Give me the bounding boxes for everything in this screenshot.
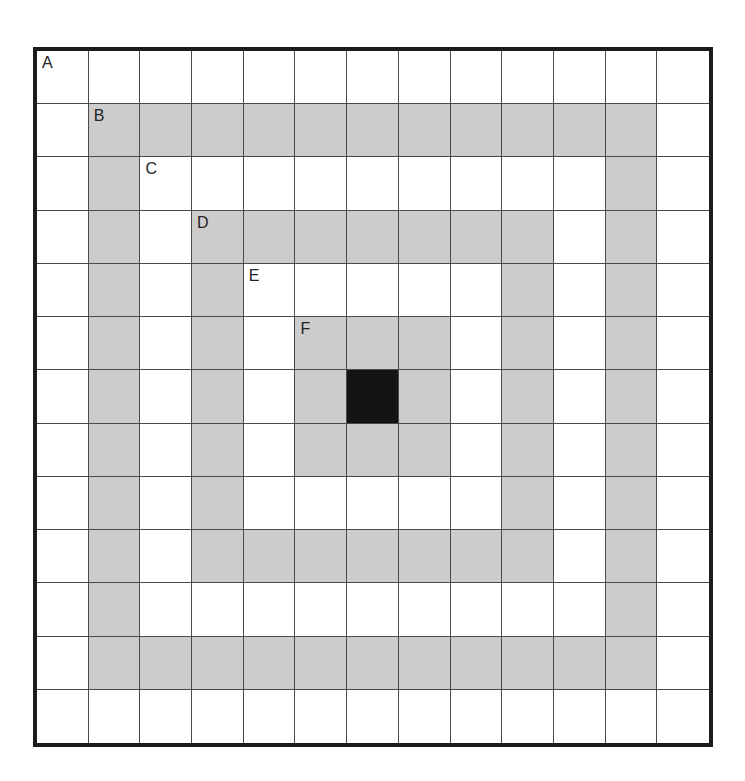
grid-cell-ring-0 (451, 690, 503, 743)
grid-cell-ring-2 (554, 583, 606, 636)
grid-cell-ring-0 (657, 264, 709, 317)
grid-cell-ring-2 (244, 583, 296, 636)
grid-cell-ring-0 (657, 637, 709, 690)
grid-cell-ring-2 (140, 370, 192, 423)
grid-cell-ring-3 (502, 477, 554, 530)
grid-cell-ring-0 (657, 690, 709, 743)
grid-cell-ring-4 (295, 477, 347, 530)
grid-cell-ring-0 (244, 690, 296, 743)
grid-cell-ring-2 (140, 583, 192, 636)
grid-cell-ring-2 (140, 530, 192, 583)
grid-cell-ring-5 (347, 317, 399, 370)
grid-cell-ring-4 (244, 370, 296, 423)
grid-cell-ring-3 (295, 530, 347, 583)
grid-cell-ring-0 (37, 264, 89, 317)
grid-cell-ring-0 (37, 424, 89, 477)
grid-cell-ring-2 (244, 157, 296, 210)
grid-cell-ring-0 (657, 51, 709, 104)
grid-cell-ring-0 (37, 690, 89, 743)
grid-cell-ring-1 (192, 104, 244, 157)
grid-cell-ring-0 (295, 690, 347, 743)
grid-cell-ring-3 (192, 530, 244, 583)
grid-cell-ring-0 (657, 530, 709, 583)
grid-cell-ring-2 (554, 424, 606, 477)
grid-cell-ring-5 (295, 370, 347, 423)
grid-cell-ring-2: C (140, 157, 192, 210)
grid-cell-ring-1 (554, 637, 606, 690)
grid-cell-ring-0 (140, 51, 192, 104)
grid-cell-ring-1 (451, 104, 503, 157)
grid-cell-ring-0 (140, 690, 192, 743)
grid-cell-ring-2 (502, 157, 554, 210)
grid-cell-ring-1 (89, 583, 141, 636)
grid-cell-ring-3 (451, 530, 503, 583)
grid-cell-ring-3 (244, 211, 296, 264)
grid-cell-ring-2 (192, 157, 244, 210)
grid-cell-ring-3 (347, 211, 399, 264)
grid-cell-ring-5 (399, 370, 451, 423)
grid-cell-ring-1 (89, 477, 141, 530)
grid-cell-ring-0 (192, 51, 244, 104)
grid-cell-ring-0 (89, 51, 141, 104)
grid-cell-ring-1 (89, 530, 141, 583)
grid-cell-ring-0 (606, 51, 658, 104)
ring-grid: ABCDEF (37, 51, 709, 743)
grid-cell-ring-2 (554, 264, 606, 317)
grid-cell-ring-3 (399, 211, 451, 264)
ring-label-b: B (94, 108, 105, 124)
grid-cell-ring-0 (657, 157, 709, 210)
grid-cell-ring-2 (140, 264, 192, 317)
grid-cell-ring-0 (657, 424, 709, 477)
grid-cell-ring-3 (502, 211, 554, 264)
grid-cell-ring-0 (37, 477, 89, 530)
ring-label-e: E (249, 268, 260, 284)
grid-cell-ring-0 (657, 104, 709, 157)
grid-cell-ring-2 (554, 477, 606, 530)
grid-cell-ring-0 (399, 51, 451, 104)
grid-cell-ring-4 (399, 477, 451, 530)
grid-cell-ring-1 (89, 264, 141, 317)
grid-cell-ring-3 (244, 530, 296, 583)
grid-cell-ring-3 (502, 530, 554, 583)
grid-cell-ring-1 (606, 157, 658, 210)
grid-cell-ring-1 (347, 104, 399, 157)
grid-cell-ring-2 (140, 424, 192, 477)
grid-cell-ring-5: F (295, 317, 347, 370)
grid-cell-ring-0 (192, 690, 244, 743)
grid-cell-ring-4 (451, 264, 503, 317)
grid-cell-ring-0 (37, 317, 89, 370)
grid-cell-ring-1 (295, 637, 347, 690)
ring-grid-board: ABCDEF (33, 47, 713, 747)
grid-cell-ring-1 (89, 211, 141, 264)
grid-cell-ring-5 (347, 424, 399, 477)
grid-cell-ring-1 (606, 424, 658, 477)
grid-cell-ring-5 (295, 424, 347, 477)
grid-cell-ring-3 (192, 424, 244, 477)
grid-cell-ring-0 (554, 51, 606, 104)
grid-cell-ring-1 (606, 317, 658, 370)
grid-cell-ring-0 (37, 157, 89, 210)
grid-cell-ring-1 (140, 104, 192, 157)
grid-cell-ring-3 (192, 370, 244, 423)
grid-cell-ring-0 (657, 370, 709, 423)
grid-cell-ring-4 (451, 317, 503, 370)
grid-cell-ring-2 (399, 157, 451, 210)
grid-cell-ring-4 (451, 370, 503, 423)
grid-cell-ring-2 (451, 157, 503, 210)
grid-cell-ring-0 (554, 690, 606, 743)
grid-cell-ring-3 (502, 370, 554, 423)
grid-cell-ring-0 (657, 317, 709, 370)
grid-cell-ring-1 (89, 370, 141, 423)
grid-cell-ring-5 (399, 424, 451, 477)
grid-cell-ring-2 (140, 211, 192, 264)
grid-cell-ring-1 (140, 637, 192, 690)
grid-cell-ring-3 (192, 477, 244, 530)
grid-cell-ring-1 (606, 264, 658, 317)
grid-cell-ring-1 (606, 370, 658, 423)
grid-cell-ring-2 (295, 583, 347, 636)
grid-cell-ring-1 (606, 477, 658, 530)
grid-cell-ring-0 (37, 211, 89, 264)
grid-cell-ring-1 (399, 637, 451, 690)
grid-cell-ring-1 (192, 637, 244, 690)
grid-cell-ring-1: B (89, 104, 141, 157)
